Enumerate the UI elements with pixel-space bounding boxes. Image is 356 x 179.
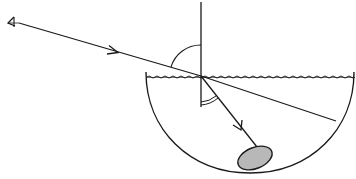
eye-icon — [8, 17, 19, 27]
stone — [234, 142, 275, 175]
refraction-diagram: Refraction of light: viewing a stone in … — [0, 0, 356, 179]
angle-incidence-arc — [171, 45, 201, 67]
incident-ray — [19, 23, 201, 76]
apparent-ray-extension — [201, 76, 336, 121]
refracted-ray — [201, 76, 257, 147]
diagram-canvas — [0, 0, 356, 179]
